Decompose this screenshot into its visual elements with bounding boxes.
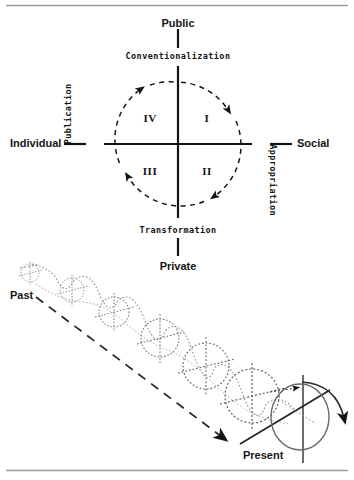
figure-root: Public Conventionalization Transformatio… <box>0 0 354 480</box>
present-internal-diagonal <box>282 402 316 424</box>
present-circle <box>271 384 329 450</box>
spiral-stage-2 <box>57 275 88 306</box>
spiral-ribbon-upper <box>32 264 296 416</box>
present-outflow-arrow <box>302 382 344 418</box>
time-baseline-dashed <box>36 297 222 437</box>
time-label-past: Past <box>10 290 33 301</box>
time-label-present: Present <box>243 450 283 461</box>
spiral-stage-6 <box>220 363 285 430</box>
bottom-diagram-layer <box>0 0 354 480</box>
spiral-stage-1 <box>19 262 42 285</box>
present-axis-oblique <box>240 390 330 444</box>
spiral-stage-3 <box>95 293 134 332</box>
